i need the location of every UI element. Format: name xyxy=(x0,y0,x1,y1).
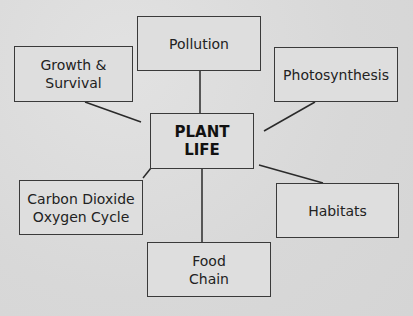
node-carbon-oxygen-cycle: Carbon Dioxide Oxygen Cycle xyxy=(19,180,143,235)
center-label: PLANT LIFE xyxy=(175,123,230,159)
connector-growth xyxy=(85,102,141,122)
node-food-chain: Food Chain xyxy=(147,242,271,297)
node-label: Growth & Survival xyxy=(40,56,106,92)
node-center-plant-life: PLANT LIFE xyxy=(150,113,254,169)
connector-photosynthesis xyxy=(264,102,315,131)
node-label: Pollution xyxy=(169,35,229,53)
connector-habitats xyxy=(259,165,323,183)
node-label: Photosynthesis xyxy=(283,66,389,84)
node-growth-survival: Growth & Survival xyxy=(14,46,133,102)
node-photosynthesis: Photosynthesis xyxy=(274,47,398,102)
node-pollution: Pollution xyxy=(137,16,261,71)
node-label: Carbon Dioxide Oxygen Cycle xyxy=(27,190,134,226)
node-label: Habitats xyxy=(308,202,367,220)
node-label: Food Chain xyxy=(189,252,229,288)
node-habitats: Habitats xyxy=(276,183,399,238)
